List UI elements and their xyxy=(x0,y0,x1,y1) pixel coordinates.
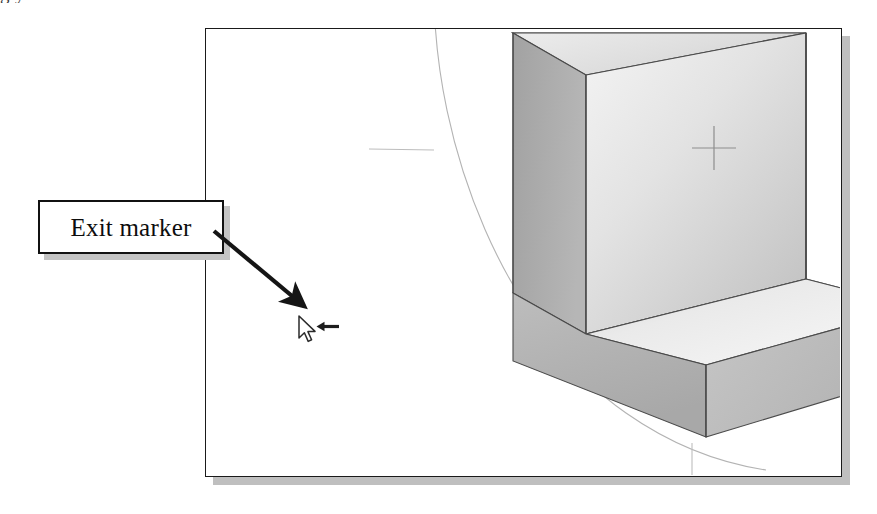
exit-marker-callout-label: Exit marker xyxy=(71,215,192,240)
l-shaped-block xyxy=(513,33,840,437)
illustration-canvas: g y xyxy=(0,0,877,514)
cropped-caption-text-above: g y xyxy=(0,0,560,3)
exit-marker-callout-box[interactable]: Exit marker xyxy=(38,200,224,254)
cad-drawing-viewport[interactable] xyxy=(205,28,842,477)
viewport-scene xyxy=(206,29,840,475)
